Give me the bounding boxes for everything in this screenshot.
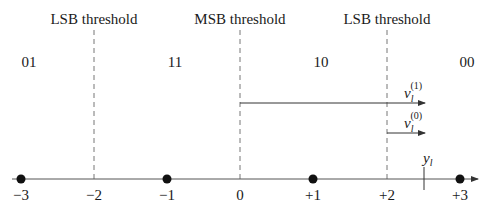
region-label-10: 10 bbox=[314, 54, 329, 70]
tick-label-0: 0 bbox=[236, 187, 244, 203]
vector-label-1: νl(1) bbox=[404, 80, 422, 104]
threshold-label-msb: MSB threshold bbox=[194, 11, 286, 27]
tick-label-minus3: −3 bbox=[13, 187, 29, 203]
constellation-point-minus3 bbox=[17, 175, 26, 184]
threshold-label-lsb-right: LSB threshold bbox=[343, 11, 431, 27]
threshold-label-lsb-left: LSB threshold bbox=[50, 11, 138, 27]
tick-label-plus3: +3 bbox=[452, 187, 468, 203]
constellation-point-plus1 bbox=[309, 175, 318, 184]
diagram-canvas: LSB threshold MSB threshold LSB threshol… bbox=[0, 0, 491, 211]
tick-label-minus1: −1 bbox=[159, 187, 175, 203]
region-label-01: 01 bbox=[22, 54, 37, 70]
region-label-00: 00 bbox=[460, 54, 475, 70]
tick-label-minus2: −2 bbox=[86, 187, 102, 203]
tick-label-plus2: +2 bbox=[379, 187, 395, 203]
constellation-point-plus3 bbox=[456, 175, 465, 184]
received-sample-label: yl bbox=[421, 150, 433, 168]
region-label-11: 11 bbox=[168, 54, 182, 70]
constellation-point-minus1 bbox=[163, 175, 172, 184]
vector-label-0: νl(0) bbox=[404, 110, 422, 134]
tick-label-plus1: +1 bbox=[305, 187, 321, 203]
